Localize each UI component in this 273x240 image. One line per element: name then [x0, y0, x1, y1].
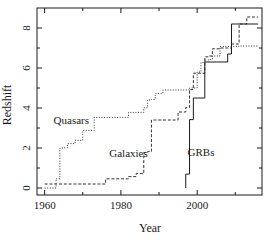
series-label-grbs: GRBs	[188, 146, 215, 158]
figure-container: 19601980200002468 QuasarsGalaxiesGRBs Ye…	[0, 0, 273, 240]
series-annotations: QuasarsGalaxiesGRBs	[54, 114, 215, 159]
series-line-grbs	[186, 24, 258, 188]
x-tick-label: 2000	[186, 199, 209, 211]
redshift-vs-year-chart: 19601980200002468 QuasarsGalaxiesGRBs Ye…	[0, 0, 273, 240]
series-line-galaxies	[45, 17, 259, 184]
y-axis-label: Redshift	[0, 84, 14, 125]
y-tick-label: 6	[20, 65, 32, 71]
y-tick-label: 0	[20, 185, 32, 191]
x-tick-label: 1980	[110, 199, 133, 211]
y-tick-label: 8	[20, 25, 32, 31]
axis-ticks	[37, 8, 262, 195]
axis-tick-labels: 19601980200002468	[20, 25, 209, 211]
y-tick-label: 4	[20, 105, 32, 111]
x-tick-label: 1960	[34, 199, 57, 211]
plot-frame	[37, 8, 262, 195]
series-label-galaxies: Galaxies	[109, 147, 147, 159]
data-series	[45, 17, 259, 188]
y-tick-label: 2	[20, 145, 32, 151]
x-axis-label: Year	[139, 221, 161, 235]
series-label-quasars: Quasars	[54, 114, 89, 126]
